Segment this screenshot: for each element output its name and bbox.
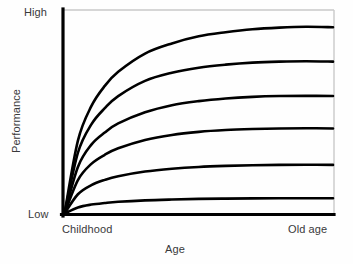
chart-figure: High Low Childhood Old age Age Performan…: [0, 0, 353, 264]
x-axis-tick-childhood: Childhood: [62, 223, 112, 235]
plot-frame: [62, 10, 334, 216]
growth-curve-4: [65, 128, 334, 213]
growth-curve-1: [65, 27, 334, 214]
y-axis-tick-low: Low: [28, 208, 48, 220]
y-axis-tick-high: High: [24, 6, 47, 18]
growth-curve-5: [65, 165, 334, 214]
growth-curve-6: [65, 198, 334, 213]
growth-curves-group: [65, 27, 334, 214]
y-axis-title: Performance: [10, 81, 22, 161]
x-axis-title: Age: [165, 243, 185, 255]
x-axis-tick-old-age: Old age: [288, 223, 327, 235]
